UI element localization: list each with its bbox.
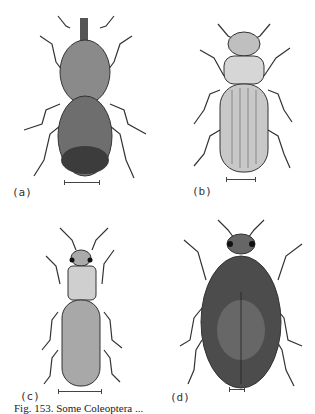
- beetle-b-illustration: [160, 0, 315, 200]
- panel-a: (a): [0, 0, 160, 200]
- scale-bar-d: [229, 389, 245, 390]
- panel-label-a: (a): [12, 186, 32, 199]
- panel-label-b: (b): [192, 185, 212, 198]
- figure-caption: Fig. 153. Some Coleoptera ...: [14, 402, 143, 414]
- scale-bar-c: [58, 391, 102, 392]
- scale-bar-a: [64, 182, 100, 183]
- beetle-d-illustration: [160, 200, 315, 400]
- panel-label-d: (d): [170, 391, 190, 404]
- beetle-c-illustration: [0, 200, 160, 400]
- beetle-a-illustration: [0, 0, 160, 200]
- scale-bar-b: [226, 179, 256, 180]
- panel-c: (c): [0, 200, 160, 400]
- panel-b: (b): [160, 0, 315, 200]
- panel-d: (d): [160, 200, 315, 400]
